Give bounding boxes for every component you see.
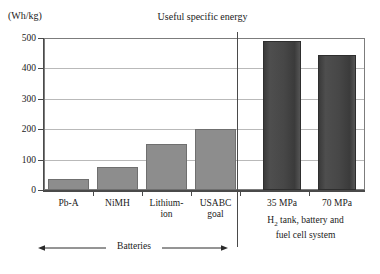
x-label-nimh-line1: NiMH [92,198,143,209]
y-tick-label-500: 500 [2,33,36,43]
x-tick-3 [191,191,192,196]
x-label-35-mpa: 35 MPa [252,198,312,209]
x-label-usabc-goal: USABC goal [190,198,241,220]
x-label-usabc-goal-line2: goal [190,209,241,220]
gridline-400 [45,68,364,69]
bar-usabc-goal [195,129,236,190]
x-label-nimh: NiMH [92,198,143,209]
y-axis-tick-labels: 500 400 300 200 100 0 [0,0,36,274]
x-tick-1 [93,191,94,196]
y-tick-label-300: 300 [2,94,36,104]
bar-nimh [97,167,138,190]
bar-70-mpa [318,55,356,190]
x-label-pb-a: Pb-A [43,198,94,209]
x-tick-5 [309,191,310,196]
chart-title: Useful specific energy [120,11,285,23]
bar-pb-a [48,179,89,190]
y-tick-label-400: 400 [2,63,36,73]
x-label-70-mpa: 70 MPa [307,198,367,209]
y-tick-label-0: 0 [2,185,36,195]
batteries-group-label: Batteries [108,240,160,252]
bar-35-mpa [263,41,301,190]
x-label-35-mpa-line1: 35 MPa [252,198,312,209]
batteries-group-annotation: Batteries [36,240,231,260]
h2-line1-rest: tank, battery and [278,215,344,225]
x-label-lithium-ion-line1: Lithium- [141,198,192,209]
x-label-lithium-ion: Lithium- ion [141,198,192,220]
x-tick-4 [240,191,241,196]
x-tick-2 [142,191,143,196]
y-tick-label-100: 100 [2,155,36,165]
x-label-usabc-goal-line1: USABC [190,198,241,209]
x-axis-line [43,190,365,192]
y-tick-label-200: 200 [2,124,36,134]
x-label-lithium-ion-line2: ion [141,209,192,220]
gridline-300 [45,99,364,100]
hydrogen-group-caption: H2 tank, battery and fuel cell system [243,215,368,242]
hydrogen-caption-line2: fuel cell system [243,230,368,242]
x-label-pb-a-line1: Pb-A [43,198,94,209]
chart-figure: (Wh/kg) Useful specific energy 500 400 3… [0,0,380,274]
x-label-70-mpa-line1: 70 MPa [307,198,367,209]
bar-lithium-ion [146,144,187,190]
hydrogen-caption-line1: H2 tank, battery and [243,215,368,230]
